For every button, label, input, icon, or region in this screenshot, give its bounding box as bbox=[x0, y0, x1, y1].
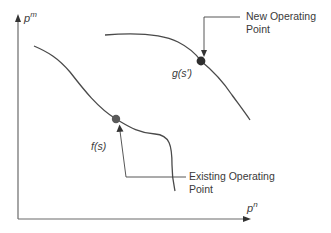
x-axis-label-sup: n bbox=[253, 200, 257, 209]
existing-point-label-line2: Point bbox=[189, 183, 275, 196]
curve-g-label: g(s') bbox=[172, 67, 192, 80]
existing-point-label-line1: Existing Operating bbox=[189, 170, 275, 183]
new-operating-point-label: New Operating Point bbox=[246, 10, 316, 36]
x-axis-label: pn bbox=[247, 200, 258, 214]
x-axis-arrow-icon bbox=[243, 216, 251, 222]
new-point-label-line1: New Operating bbox=[246, 10, 316, 23]
existing-point-leader-line bbox=[120, 131, 186, 177]
existing-point-arrow-icon bbox=[117, 125, 124, 133]
existing-operating-point-label: Existing Operating Point bbox=[189, 170, 275, 196]
y-axis-label-sup: m bbox=[30, 10, 37, 19]
new-point-label-line2: Point bbox=[246, 23, 316, 36]
curve-f bbox=[34, 46, 175, 191]
new-point-arrow-icon bbox=[201, 50, 207, 57]
y-axis-arrow-icon bbox=[15, 14, 21, 22]
new-operating-point-dot bbox=[197, 57, 206, 66]
existing-operating-point-dot bbox=[112, 115, 120, 123]
curve-f-label: f(s) bbox=[91, 140, 106, 153]
new-point-leader-line bbox=[204, 17, 240, 50]
y-axis-label: pm bbox=[24, 10, 37, 24]
